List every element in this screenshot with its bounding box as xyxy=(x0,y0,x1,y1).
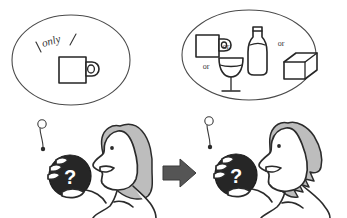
right-person-collar xyxy=(282,202,303,208)
left-person-eye xyxy=(110,146,114,150)
right-ball-question-mark: ? xyxy=(230,165,242,187)
scene-illustration: only xyxy=(0,0,347,218)
right-person-face xyxy=(259,128,307,191)
right-panel: or or or xyxy=(182,10,330,218)
left-person-face xyxy=(93,131,137,190)
transition-arrow xyxy=(163,159,196,187)
illustration-canvas: only xyxy=(0,0,347,218)
right-person-eye xyxy=(277,144,281,148)
right-person-shoulder xyxy=(303,186,330,218)
right-person xyxy=(259,122,330,218)
right-thought-trail xyxy=(205,117,213,149)
or-label-3: or xyxy=(278,39,285,48)
or-label-1: or xyxy=(223,42,230,51)
or-label-2: or xyxy=(203,62,210,71)
left-panel: only xyxy=(12,15,156,218)
right-arrow-icon xyxy=(163,159,196,187)
left-person-collar xyxy=(114,201,133,207)
left-thought-trail xyxy=(38,120,46,151)
left-person xyxy=(93,124,156,218)
left-ball-question-mark: ? xyxy=(64,166,76,188)
